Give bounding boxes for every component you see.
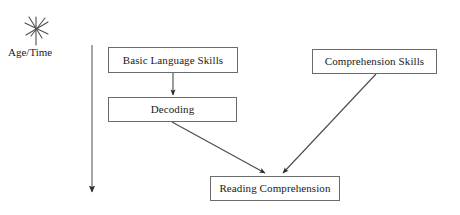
node-label: Reading Comprehension: [219, 183, 330, 194]
diagram-canvas: Age/Time Basic Language Skills Decoding …: [0, 0, 460, 215]
age-time-label: Age/Time: [8, 46, 78, 58]
node-label: Comprehension Skills: [325, 56, 424, 67]
node-basic-language-skills[interactable]: Basic Language Skills: [108, 47, 238, 73]
node-reading-comprehension[interactable]: Reading Comprehension: [210, 176, 340, 201]
node-comprehension-skills[interactable]: Comprehension Skills: [312, 49, 437, 74]
edge-comprehension-skills-to-reading-comprehension: [283, 74, 376, 173]
node-label: Basic Language Skills: [123, 55, 223, 66]
node-decoding[interactable]: Decoding: [108, 97, 237, 122]
node-label: Decoding: [151, 104, 195, 115]
starburst-icon: [20, 14, 54, 48]
age-time-axis-group: Age/Time: [8, 12, 88, 62]
edge-decoding-to-reading-comprehension: [172, 122, 265, 173]
